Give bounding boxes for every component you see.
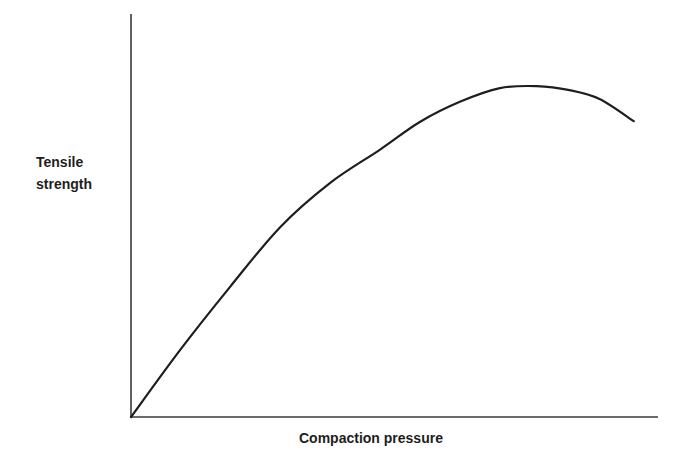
x-axis-label: Compaction pressure: [299, 430, 443, 446]
y-axis-label-line-1: Tensile: [36, 154, 83, 170]
series-layer: [131, 86, 634, 417]
y-axis-label-line-2: strength: [36, 176, 92, 192]
line-chart: Tensile strength Compaction pressure: [0, 0, 677, 474]
series-line-0: [131, 86, 634, 417]
